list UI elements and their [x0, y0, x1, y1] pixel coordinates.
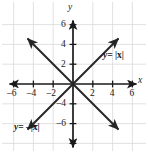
absolute-value-graph-figure: –6 –4 –2 2 4 6 6 4 2 –4 –6 x y y= |x| y=…	[0, 0, 148, 153]
x-axis-name: x	[138, 76, 142, 86]
y-tick-label-6: 6	[61, 20, 66, 30]
annotation-y-equals-abs-x: y= |x|	[103, 51, 124, 61]
annotation-neg-abs-eq: = –|x|	[18, 122, 39, 132]
x-tick-label-neg4: –4	[27, 89, 37, 99]
annotation-y-equals-negative-abs-x: y= –|x|	[14, 123, 40, 133]
x-tick-label-neg2: –2	[47, 89, 57, 99]
y-tick-label-2: 2	[61, 60, 66, 70]
x-tick-label-4: 4	[110, 89, 115, 99]
y-tick-label-neg4: –4	[57, 99, 67, 109]
x-tick-label-neg6: –6	[7, 89, 17, 99]
y-tick-label-4: 4	[61, 40, 66, 50]
y-axis-name: y	[68, 3, 72, 13]
x-tick-label-2: 2	[90, 89, 95, 99]
annotation-abs-eq: = |x|	[107, 50, 124, 60]
x-tick-label-6: 6	[130, 89, 135, 99]
y-tick-label-neg6: –6	[57, 119, 67, 129]
